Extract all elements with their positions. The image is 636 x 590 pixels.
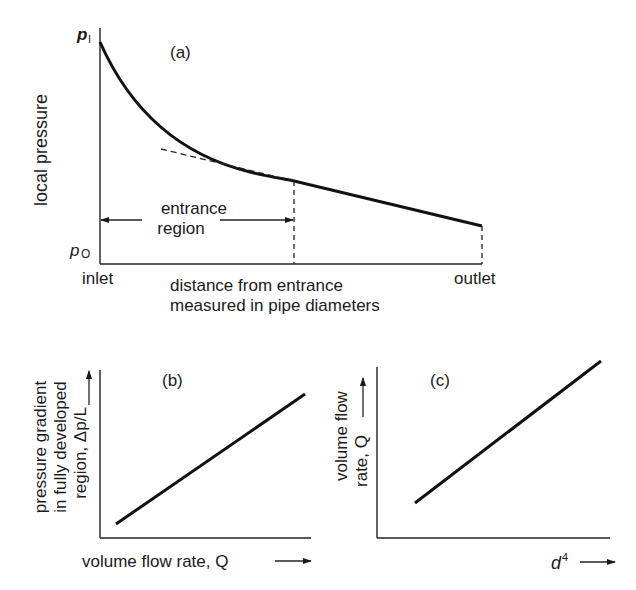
panel-a-y-axis-title: local pressure (31, 94, 51, 206)
panel-b-data-line (116, 394, 305, 524)
panel-b-label: (b) (162, 371, 183, 390)
panel-b-x-axis-title: volume flow rate, Q (82, 552, 228, 571)
panel-a-pressure-curve (100, 42, 482, 226)
panel-a-x-end-label: outlet (454, 269, 496, 288)
panel-a-y-top-sub: I (88, 33, 91, 45)
panel-a-y-top-label: p (76, 25, 87, 44)
panel-c-y-axis-title-line2: rate, Q (352, 435, 371, 487)
panel-c-label: (c) (430, 371, 450, 390)
panel-a-region-label-line2: region (157, 219, 204, 238)
figure-canvas: (a) p I p O local pressure entrance regi… (0, 0, 636, 590)
panel-b-y-axis-title-line2: in fully developed (51, 381, 70, 512)
panel-c: (c) volume flow rate, Q d 4 (332, 361, 615, 573)
panel-a-region-label-line1: entrance (161, 199, 227, 218)
panel-a-y-bottom-sub: O (81, 247, 90, 261)
panel-a-y-bottom-label: p (69, 241, 79, 260)
panel-a-x-axis-title-line1: distance from entrance (170, 276, 343, 295)
panel-a-x-start-label: inlet (82, 269, 113, 288)
panel-a: (a) p I p O local pressure entrance regi… (31, 25, 496, 315)
panel-b-y-axis-title-line1: pressure gradient (31, 381, 50, 514)
panel-c-x-axis-title-sup: 4 (562, 551, 568, 563)
panel-c-y-axis-title-line1: volume flow (332, 390, 351, 480)
panel-a-label: (a) (170, 43, 191, 62)
panel-c-x-axis-title: d (551, 553, 562, 573)
panel-a-x-axis-title-line2: measured in pipe diameters (170, 296, 380, 315)
panel-b-y-axis-title-line3: region, Δp/L (71, 407, 90, 499)
panel-b: (b) pressure gradient in fully developed… (31, 370, 311, 571)
